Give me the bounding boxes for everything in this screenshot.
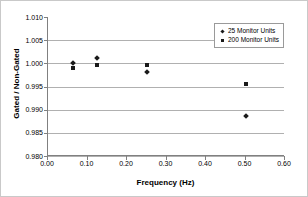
- x-axis-tick-label: 0.30: [146, 160, 186, 168]
- y-axis-tick-label: 0.995: [3, 83, 43, 90]
- y-axis-tick-label: 0.980: [3, 153, 43, 160]
- y-axis-title: Gated / Non-Gated: [12, 29, 21, 139]
- y-axis-tick-mark: [44, 17, 47, 18]
- gridline: [48, 63, 284, 64]
- x-axis-tick-mark: [166, 156, 167, 160]
- y-axis-tick-label: 1.000: [3, 60, 43, 67]
- y-axis-tick-mark: [44, 63, 47, 64]
- x-axis-tick-label: 0.00: [27, 160, 67, 168]
- x-axis-tick-mark: [87, 156, 88, 160]
- x-axis-tick-mark: [126, 156, 127, 160]
- x-axis-tick-label: 0.20: [106, 160, 146, 168]
- data-point: [95, 55, 101, 61]
- data-point: [71, 66, 75, 70]
- data-point: [243, 113, 249, 119]
- x-axis-tick-mark: [284, 156, 285, 160]
- x-axis-tick-label: 0.40: [185, 160, 225, 168]
- data-point: [144, 69, 150, 75]
- data-point: [95, 63, 99, 67]
- x-axis-tick-mark: [245, 156, 246, 160]
- gridline: [48, 133, 284, 134]
- legend-item-label: 25 Monitor Units: [227, 27, 275, 35]
- legend-item: 25 Monitor Units: [218, 27, 279, 35]
- y-axis-tick-label: 0.990: [3, 106, 43, 113]
- y-axis-tick-mark: [44, 40, 47, 41]
- x-axis-tick-label: 0.10: [67, 160, 107, 168]
- legend-item: 200 Monitor Units: [218, 36, 279, 44]
- y-axis-tick-mark: [44, 110, 47, 111]
- x-axis-tick-mark: [47, 156, 48, 160]
- x-axis-tick-mark: [205, 156, 206, 160]
- y-axis-tick-mark: [44, 133, 47, 134]
- x-axis-title: Frequency (Hz): [47, 178, 284, 187]
- x-axis-tick-label: 0.50: [225, 160, 265, 168]
- square-marker-icon: [218, 39, 227, 42]
- chart-figure: 0.9800.9850.9900.9951.0001.0051.010 0.00…: [0, 0, 308, 197]
- gridline: [48, 87, 284, 88]
- chart-legend: 25 Monitor Units200 Monitor Units: [214, 23, 284, 48]
- y-axis-tick-label: 1.005: [3, 37, 43, 44]
- y-axis-tick-label: 0.985: [3, 129, 43, 136]
- data-point: [145, 63, 149, 67]
- x-axis-tick-label: 0.60: [264, 160, 304, 168]
- diamond-marker-icon: [218, 30, 227, 33]
- gridline: [48, 110, 284, 111]
- y-axis-tick-label: 1.010: [3, 14, 43, 21]
- data-point: [244, 82, 248, 86]
- y-axis-tick-mark: [44, 87, 47, 88]
- legend-item-label: 200 Monitor Units: [227, 36, 279, 44]
